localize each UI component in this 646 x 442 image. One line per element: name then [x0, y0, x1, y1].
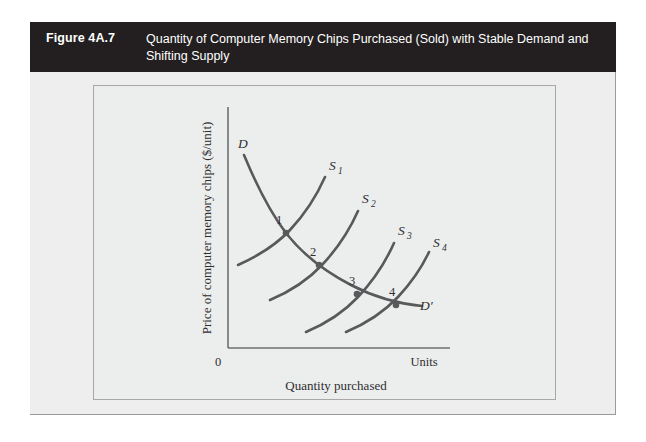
- curve-label-supply-3-sub: 3: [406, 231, 412, 241]
- figure-title-text: Quantity of Computer Memory Chips Purcha…: [146, 31, 596, 64]
- x-axis-end-label: Units: [410, 355, 437, 369]
- equilibrium-label-2: 2: [310, 245, 316, 259]
- y-axis-title: Price of computer memory chips ($/unit): [199, 122, 214, 335]
- figure-container: Figure 4A.7 Quantity of Computer Memory …: [0, 0, 646, 442]
- curve-label-supply-1-text: S: [329, 158, 336, 173]
- curve-label-supply-1: S 1: [329, 158, 343, 176]
- equilibrium-point-1: [283, 230, 290, 237]
- equilibrium-label-3: 3: [349, 274, 355, 288]
- supply-demand-chart: 1 2 3 4 D S 1 S 2 S 3 S 4 D′ 0 Units Qua…: [93, 85, 556, 400]
- equilibrium-point-3: [354, 291, 361, 298]
- curve-label-supply-2-sub: 2: [371, 199, 376, 209]
- curve-label-supply-4-text: S: [433, 235, 440, 250]
- curve-label-supply-4: S 4: [433, 235, 447, 253]
- origin-label: 0: [215, 355, 221, 369]
- figure-number-label: Figure 4A.7: [46, 31, 115, 45]
- figure-header-bar: Figure 4A.7 Quantity of Computer Memory …: [30, 22, 616, 72]
- curve-label-supply-3-text: S: [398, 223, 405, 238]
- x-axis-title: Quantity purchased: [285, 378, 387, 393]
- equilibrium-point-4: [393, 302, 400, 309]
- equilibrium-label-1: 1: [276, 213, 282, 227]
- curve-label-supply-1-sub: 1: [338, 166, 343, 176]
- curve-label-supply-4-sub: 4: [442, 243, 447, 253]
- curve-label-supply-2-text: S: [362, 191, 369, 206]
- curve-label-demand: D: [237, 136, 248, 151]
- curve-demand: [244, 155, 422, 306]
- equilibrium-label-4: 4: [389, 285, 396, 299]
- curve-label-supply-2: S 2: [362, 191, 376, 209]
- curve-label-supply-3: S 3: [398, 223, 412, 241]
- equilibrium-point-2: [316, 262, 323, 269]
- curve-label-demand-prime: D′: [419, 298, 434, 313]
